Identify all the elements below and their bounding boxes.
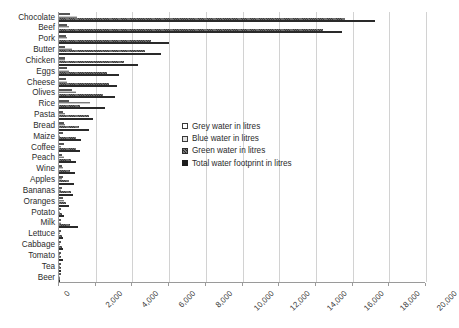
category-label-eggs: Eggs [36, 67, 55, 76]
bar-group [59, 12, 426, 23]
category-label-coffee: Coffee [31, 143, 55, 152]
tick-label: 20,000 [435, 289, 459, 313]
tick-label: 12,000 [288, 289, 312, 313]
bar-group [59, 272, 426, 283]
legend-swatch-icon [182, 123, 188, 129]
bar-group [59, 110, 426, 121]
category-label-chicken: Chicken [25, 56, 55, 65]
category-label-lettuce: Lettuce [28, 229, 55, 238]
category-label-cheese: Cheese [27, 78, 55, 87]
category-label-butter: Butter [33, 45, 55, 54]
bar-group [59, 99, 426, 110]
category-label-tea: Tea [42, 262, 55, 271]
tick-mark [315, 283, 316, 286]
tick-mark [58, 283, 59, 286]
tick-label: 0 [62, 289, 72, 299]
bar-group [59, 185, 426, 196]
category-label-potato: Potato [31, 208, 55, 217]
bar-group [59, 23, 426, 34]
bar-group [59, 77, 426, 88]
tick-mark [95, 283, 96, 286]
tick-mark [278, 283, 279, 286]
category-label-apples: Apples [30, 175, 55, 184]
legend-swatch-icon [182, 160, 188, 166]
category-label-olives: Olives [32, 88, 55, 97]
legend-swatch-icon [182, 136, 188, 142]
value-axis-labels: 02,0004,0006,0008,00010,00012,00014,0001… [0, 283, 440, 328]
bar-group [59, 34, 426, 45]
bar-group [59, 196, 426, 207]
chart-legend: Grey water in litresBlue water in litres… [182, 120, 292, 170]
tick-label: 6,000 [177, 289, 198, 310]
category-label-rice: Rice [39, 99, 55, 108]
legend-item-grey[interactable]: Grey water in litres [182, 120, 292, 132]
legend-label: Blue water in litres [192, 134, 259, 143]
legend-label: Grey water in litres [192, 122, 260, 131]
category-label-maize: Maize [33, 132, 55, 141]
legend-label: Total water footprint in litres [192, 159, 292, 168]
tick-label: 10,000 [252, 289, 276, 313]
category-label-chocolate: Chocolate [18, 13, 55, 22]
legend-item-blue[interactable]: Blue water in litres [182, 132, 292, 144]
category-label-bread: Bread [33, 121, 55, 130]
category-label-beer: Beer [38, 273, 55, 282]
legend-item-green[interactable]: Green water in litres [182, 145, 292, 157]
category-label-bananas: Bananas [23, 186, 55, 195]
bar-group [59, 240, 426, 251]
bar-group [59, 250, 426, 261]
category-label-oranges: Oranges [24, 197, 55, 206]
category-label-wine: Wine [36, 164, 55, 173]
tick-mark [242, 283, 243, 286]
category-label-pasta: Pasta [34, 110, 55, 119]
category-label-pork: Pork [38, 34, 55, 43]
legend-item-total[interactable]: Total water footprint in litres [182, 157, 292, 169]
bar-group [59, 175, 426, 186]
tick-label: 4,000 [140, 289, 161, 310]
bar-group [59, 229, 426, 240]
tick-mark [425, 283, 426, 286]
bar-group [59, 261, 426, 272]
tick-mark [352, 283, 353, 286]
bar-group [59, 66, 426, 77]
tick-mark [131, 283, 132, 286]
bar-group [59, 45, 426, 56]
tick-label: 14,000 [325, 289, 349, 313]
tick-label: 8,000 [214, 289, 235, 310]
legend-label: Green water in litres [192, 146, 265, 155]
bar-group [59, 55, 426, 66]
tick-label: 2,000 [104, 289, 125, 310]
tick-mark [168, 283, 169, 286]
category-label-cabbage: Cabbage [22, 240, 55, 249]
bar-group [59, 207, 426, 218]
legend-swatch-icon [182, 148, 188, 154]
category-label-milk: Milk [40, 218, 55, 227]
bar-group [59, 218, 426, 229]
category-label-tomato: Tomato [28, 251, 55, 260]
tick-label: 18,000 [398, 289, 422, 313]
tick-mark [205, 283, 206, 286]
tick-mark [388, 283, 389, 286]
category-axis-labels: ChocolateBeefPorkButterChickenEggsCheese… [0, 12, 55, 283]
category-label-beef: Beef [38, 23, 55, 32]
bar-group [59, 88, 426, 99]
tick-label: 16,000 [362, 289, 386, 313]
category-label-peach: Peach [32, 153, 55, 162]
gridline [426, 12, 427, 282]
